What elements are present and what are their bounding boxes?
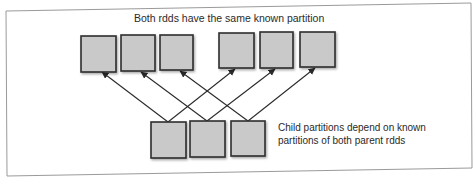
parent-rdd-1-partitions <box>81 35 193 72</box>
child-rdd-partition-1 <box>190 121 225 157</box>
parent-rdd-2-partitions <box>219 32 335 68</box>
narrow-dependency-diagram: Both rdds have the same known partition … <box>0 0 476 179</box>
annotation-line-2: partitions of both parent rdds <box>278 135 405 146</box>
diagram-title: Both rdds have the same known partition <box>134 12 324 24</box>
parent-rdd-2-partition-0 <box>219 33 254 68</box>
parent-rdd-1-partition-0 <box>81 36 116 72</box>
child-rdd-partition-0 <box>151 122 186 158</box>
parent-rdd-2-partition-1 <box>260 32 293 68</box>
diagram-canvas: Both rdds have the same known partition … <box>0 0 476 179</box>
child-rdd-partition-2 <box>231 121 265 156</box>
child-rdd-partitions <box>151 121 265 158</box>
parent-rdd-1-partition-1 <box>121 35 155 71</box>
annotation-line-1: Child partitions depend on known <box>278 122 426 133</box>
parent-rdd-2-partition-2 <box>300 32 335 67</box>
parent-rdd-1-partition-2 <box>160 35 193 70</box>
